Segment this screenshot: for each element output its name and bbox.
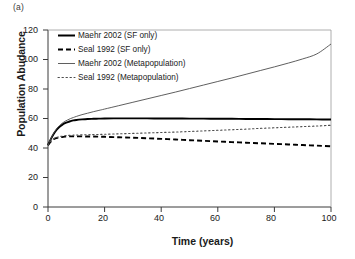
legend-swatches [58,36,75,78]
x-axis-ticks [48,207,331,212]
y-axis-ticks [43,30,48,207]
series-line-seal-1992-metapopulation [48,125,331,145]
series-line-seal-1992-sf-only [48,136,331,146]
series-line-maehr-2002-metapopulation [48,44,331,145]
figure-panel-a: (a) Population Abudance Time (years) 120… [0,0,355,259]
data-series-layer [48,44,331,146]
plot-area [0,0,355,259]
